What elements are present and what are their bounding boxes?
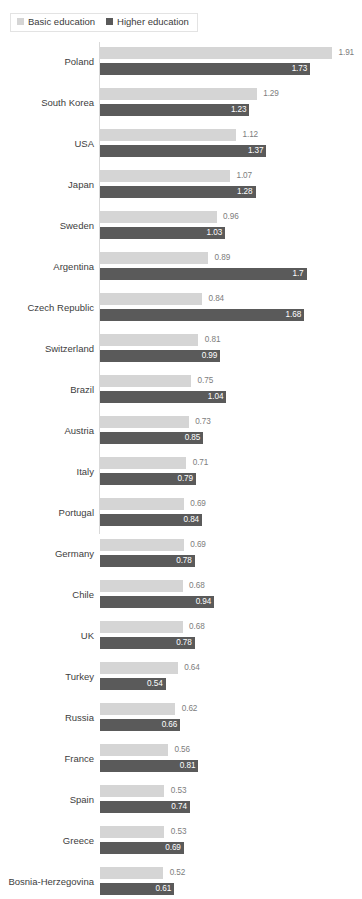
bar-basic-education[interactable]: 0.62 <box>100 703 175 715</box>
bar-value-label: 0.69 <box>190 541 206 549</box>
bar-higher-education[interactable]: 0.94 <box>100 596 214 608</box>
bar-group: 0.680.94 <box>100 575 362 616</box>
bar-basic-education[interactable]: 0.75 <box>100 375 191 387</box>
bar-higher-education[interactable]: 0.61 <box>100 883 174 895</box>
bar-basic-education[interactable]: 0.52 <box>100 867 163 879</box>
legend-entry-higher-education: Higher education <box>106 17 189 27</box>
bar-row: USA1.121.37 <box>0 124 362 165</box>
bar-value-label: 0.84 <box>209 295 225 303</box>
bar-value-label: 1.07 <box>236 172 252 180</box>
bar-higher-education[interactable]: 1.37 <box>100 145 266 157</box>
bottom-cropped-text <box>8 554 354 564</box>
category-label: Greece <box>0 836 100 846</box>
bar-basic-education[interactable]: 0.64 <box>100 662 178 674</box>
category-label: Bosnia-Herzegovina <box>0 877 100 887</box>
bar-basic-education[interactable]: 1.12 <box>100 129 236 141</box>
bar-basic-education[interactable]: 0.68 <box>100 621 183 633</box>
bar-higher-education[interactable]: 1.03 <box>100 227 225 239</box>
bar-group: 0.530.69 <box>100 821 362 862</box>
legend-entry-basic-education: Basic education <box>17 17 95 27</box>
category-label: South Korea <box>0 98 100 108</box>
bar-higher-education[interactable]: 0.69 <box>100 842 184 854</box>
bar-higher-education[interactable]: 1.7 <box>100 268 307 280</box>
bar-value-label: 1.28 <box>237 188 253 196</box>
bar-value-label: 0.66 <box>162 721 178 729</box>
category-label: Brazil <box>0 385 100 395</box>
bar-value-label: 0.89 <box>215 254 231 262</box>
bar-value-label: 0.69 <box>165 844 181 852</box>
bar-value-label: 0.99 <box>202 352 218 360</box>
legend-label-basic-education: Basic education <box>28 17 95 27</box>
bar-value-label: 0.73 <box>195 418 211 426</box>
bar-value-label: 1.12 <box>243 131 259 139</box>
bar-chart-plot-area: Poland1.911.73South Korea1.291.23USA1.12… <box>0 42 362 534</box>
bar-row: Poland1.911.73 <box>0 42 362 83</box>
bar-higher-education[interactable]: 0.79 <box>100 473 196 485</box>
bar-group: 0.530.74 <box>100 780 362 821</box>
bar-basic-education[interactable]: 1.29 <box>100 88 257 100</box>
category-label: Czech Republic <box>0 303 100 313</box>
bar-row: Russia0.620.66 <box>0 698 362 739</box>
bar-higher-education[interactable]: 0.99 <box>100 350 220 362</box>
bar-basic-education[interactable]: 0.69 <box>100 498 184 510</box>
bar-value-label: 0.74 <box>171 803 187 811</box>
bar-group: 0.640.54 <box>100 657 362 698</box>
bar-basic-education[interactable]: 0.53 <box>100 785 164 797</box>
bar-value-label: 1.68 <box>286 311 302 319</box>
bar-row: Sweden0.961.03 <box>0 206 362 247</box>
bar-higher-education[interactable]: 0.81 <box>100 760 198 772</box>
bar-value-label: 1.73 <box>292 65 308 73</box>
bar-higher-education[interactable]: 1.28 <box>100 186 256 198</box>
bar-basic-education[interactable]: 0.68 <box>100 580 183 592</box>
bar-value-label: 0.54 <box>147 680 163 688</box>
bar-value-label: 0.81 <box>205 336 221 344</box>
bar-basic-education[interactable]: 1.91 <box>100 47 332 59</box>
bar-row: Argentina0.891.7 <box>0 247 362 288</box>
bar-row: Spain0.530.74 <box>0 780 362 821</box>
bar-value-label: 0.53 <box>171 787 187 795</box>
bar-basic-education[interactable]: 1.07 <box>100 170 230 182</box>
chart-legend: Basic education Higher education <box>10 13 198 32</box>
bar-group: 1.911.73 <box>100 42 362 83</box>
bar-group: 0.620.66 <box>100 698 362 739</box>
bar-basic-education[interactable]: 0.69 <box>100 539 184 551</box>
bar-value-label: 0.78 <box>176 639 192 647</box>
bar-higher-education[interactable]: 0.74 <box>100 801 190 813</box>
bar-higher-education[interactable]: 1.68 <box>100 309 304 321</box>
bar-value-label: 1.29 <box>263 90 279 98</box>
bar-higher-education[interactable]: 0.85 <box>100 432 203 444</box>
bar-row: Austria0.730.85 <box>0 411 362 452</box>
bar-higher-education[interactable]: 1.04 <box>100 391 226 403</box>
category-label: Turkey <box>0 672 100 682</box>
bar-higher-education[interactable]: 0.66 <box>100 719 180 731</box>
bar-basic-education[interactable]: 0.84 <box>100 293 202 305</box>
bar-higher-education[interactable]: 1.23 <box>100 104 249 116</box>
bar-higher-education[interactable]: 0.84 <box>100 514 202 526</box>
bar-value-label: 0.85 <box>185 434 201 442</box>
bar-value-label: 0.68 <box>189 582 205 590</box>
bar-group: 1.291.23 <box>100 83 362 124</box>
bar-basic-education[interactable]: 0.73 <box>100 416 189 428</box>
bar-row: Bosnia-Herzegovina0.520.61 <box>0 862 362 899</box>
bar-value-label: 0.94 <box>196 598 212 606</box>
bar-value-label: 0.53 <box>171 828 187 836</box>
bar-value-label: 0.79 <box>177 475 193 483</box>
bar-rows-container: Poland1.911.73South Korea1.291.23USA1.12… <box>0 42 362 899</box>
bar-group: 0.730.85 <box>100 411 362 452</box>
bar-higher-education[interactable]: 0.78 <box>100 637 195 649</box>
bar-basic-education[interactable]: 0.96 <box>100 211 217 223</box>
bar-value-label: 0.81 <box>180 762 196 770</box>
category-label: Poland <box>0 57 100 67</box>
bar-basic-education[interactable]: 0.71 <box>100 457 186 469</box>
bar-row: Switzerland0.810.99 <box>0 329 362 370</box>
bar-basic-education[interactable]: 0.56 <box>100 744 168 756</box>
bar-higher-education[interactable]: 0.54 <box>100 678 166 690</box>
bar-value-label: 0.64 <box>184 664 200 672</box>
bar-row: South Korea1.291.23 <box>0 83 362 124</box>
bar-value-label: 0.71 <box>193 459 209 467</box>
bar-basic-education[interactable]: 0.53 <box>100 826 164 838</box>
bar-value-label: 0.68 <box>189 623 205 631</box>
bar-basic-education[interactable]: 0.89 <box>100 252 208 264</box>
bar-basic-education[interactable]: 0.81 <box>100 334 198 346</box>
bar-higher-education[interactable]: 1.73 <box>100 63 310 75</box>
